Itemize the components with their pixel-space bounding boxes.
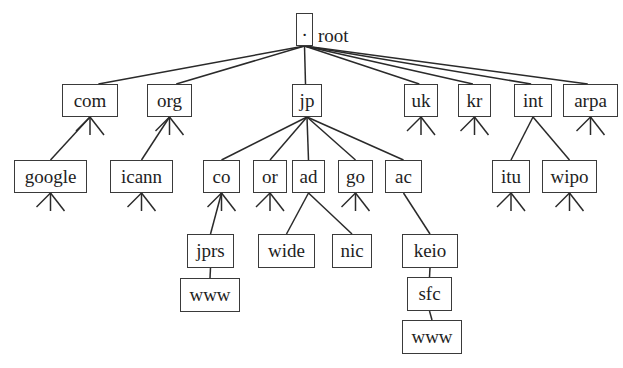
edge-jp-go [307, 117, 356, 160]
fan-right-or [270, 193, 284, 211]
fan-left-itu [497, 193, 511, 207]
edge-root-int [305, 46, 532, 84]
node-jp: jp [292, 84, 322, 117]
node-ad: ad [292, 160, 325, 193]
edge-org-icann [142, 117, 170, 160]
fan-left-google [37, 193, 51, 207]
node-keio: keio [402, 234, 458, 268]
node-jprs: jprs [187, 234, 234, 268]
node-nic: nic [332, 234, 372, 268]
edge-sfc-www_keio [430, 311, 433, 320]
edge-jp-ad [307, 117, 309, 160]
edge-jp-ac [307, 117, 404, 160]
edge-root-org [176, 46, 304, 84]
dns-tree-diagram: .rootcomorgjpukkrintarpagoogleicanncoora… [0, 0, 623, 368]
edge-jp-co [222, 117, 308, 160]
fan-right-co [222, 193, 236, 211]
edge-root-com [98, 46, 304, 84]
fan-right-go [356, 193, 370, 211]
node-go: go [338, 160, 373, 193]
fan-left-wipo [556, 193, 570, 207]
node-wide: wide [258, 234, 315, 268]
fan-right-wipo [570, 193, 584, 211]
fan-right-org [170, 117, 184, 135]
fan-right-itu [511, 193, 525, 211]
node-int: int [514, 84, 552, 117]
fan-right-com [90, 117, 104, 135]
node-uk: uk [404, 84, 438, 117]
node-org: org [147, 84, 192, 117]
node-www-keio: www [402, 320, 462, 354]
edge-int-itu [511, 117, 533, 160]
fan-right-uk [421, 117, 435, 135]
edge-ac-keio [404, 193, 431, 234]
node-ac: ac [385, 160, 422, 193]
node-sfc: sfc [407, 277, 452, 311]
node-or: or [253, 160, 287, 193]
node-root: . [296, 13, 313, 46]
fan-left-icann [128, 193, 142, 207]
fan-left-or [256, 193, 270, 207]
fan-left-arpa [577, 117, 591, 131]
fan-left-uk [407, 117, 421, 131]
edge-ad-nic [309, 193, 353, 234]
fan-right-icann [142, 193, 156, 211]
node-google: google [14, 160, 87, 193]
edge-int-wipo [533, 117, 570, 160]
node-www-jprs: www [180, 278, 240, 312]
fan-right-kr [475, 117, 489, 135]
edge-jprs-www_jprs [210, 268, 211, 278]
fan-right-arpa [591, 117, 605, 135]
fan-right-google [51, 193, 65, 211]
root-label: root [318, 25, 349, 47]
node-co: co [203, 160, 240, 193]
node-arpa: arpa [563, 84, 618, 117]
edge-root-jp [305, 46, 306, 84]
node-itu: itu [492, 160, 530, 193]
node-kr: kr [458, 84, 491, 117]
edge-root-uk [305, 46, 420, 84]
edge-com-google [51, 117, 91, 160]
edge-keio-sfc [430, 268, 431, 277]
edge-jp-or [270, 117, 307, 160]
fan-left-go [342, 193, 356, 207]
edge-ad-wide [287, 193, 309, 234]
fan-left-kr [461, 117, 475, 131]
node-wipo: wipo [542, 160, 597, 193]
node-com: com [62, 84, 118, 117]
node-icann: icann [110, 160, 173, 193]
